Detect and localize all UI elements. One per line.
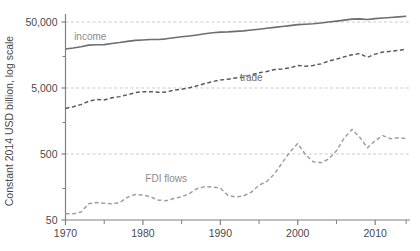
series-line-fdi-flows — [66, 129, 407, 213]
chart-container: 50,0005,00050050 19701980199020002010 in… — [0, 0, 420, 251]
series-lines-group — [66, 16, 407, 214]
x-tick-label: 2010 — [363, 227, 387, 239]
gridlines-group — [66, 22, 411, 154]
series-line-income — [66, 16, 407, 49]
series-label-trade: trade — [240, 72, 263, 83]
line-chart: 50,0005,00050050 19701980199020002010 in… — [0, 0, 420, 251]
series-labels-group: incometradeFDI flows — [74, 31, 263, 185]
series-label-income: income — [74, 31, 107, 42]
y-tick-label: 50 — [46, 214, 58, 226]
x-tick-label: 2000 — [286, 227, 310, 239]
y-axis-title: Constant 2014 USD billion, log scale — [3, 36, 15, 207]
y-tick-label: 50,000 — [25, 16, 57, 28]
x-tick-label: 1990 — [209, 227, 233, 239]
x-tick-label: 1970 — [54, 227, 78, 239]
y-tick-labels-group: 50,0005,00050050 — [25, 16, 57, 226]
y-axis-title-group: Constant 2014 USD billion, log scale — [3, 36, 15, 207]
x-tick-label: 1980 — [131, 227, 155, 239]
series-label-fdi-flows: FDI flows — [145, 173, 187, 184]
y-tick-label: 500 — [40, 148, 58, 160]
axes-group — [62, 14, 411, 225]
y-tick-label: 5,000 — [31, 82, 57, 94]
x-tick-labels-group: 19701980199020002010 — [54, 227, 387, 239]
series-line-trade — [66, 49, 407, 108]
